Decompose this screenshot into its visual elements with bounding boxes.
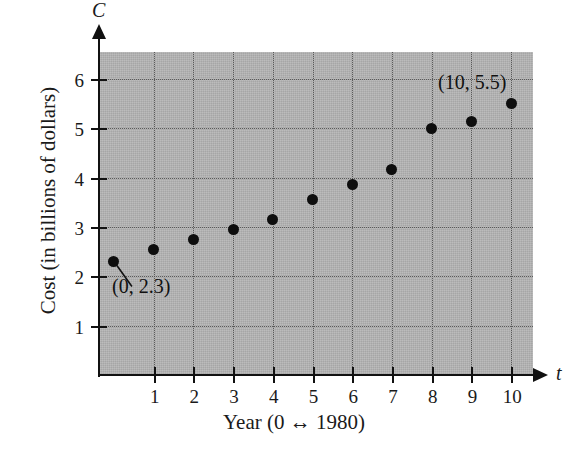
annotation-leader-line — [0, 0, 588, 459]
chart-figure: C t 123456 12345678910 Cost (in billions… — [0, 0, 588, 459]
